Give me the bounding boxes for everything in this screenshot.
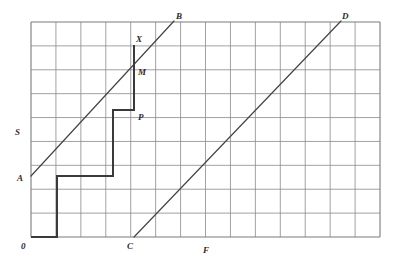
label-point-d: D xyxy=(341,11,349,21)
label-origin: 0 xyxy=(21,241,26,251)
geometry-figure: 0SFABCDMPX xyxy=(0,0,397,267)
label-point-c: C xyxy=(127,241,134,251)
label-point-m: M xyxy=(137,67,147,77)
label-point-p: P xyxy=(138,112,144,122)
label-point-a: A xyxy=(16,173,23,183)
figure-background xyxy=(0,0,397,267)
figure-canvas: 0SFABCDMPX xyxy=(0,0,397,267)
label-axis-s: S xyxy=(15,127,20,137)
label-point-x: X xyxy=(135,34,143,44)
label-axis-f: F xyxy=(202,245,209,255)
label-point-b: B xyxy=(175,11,182,21)
